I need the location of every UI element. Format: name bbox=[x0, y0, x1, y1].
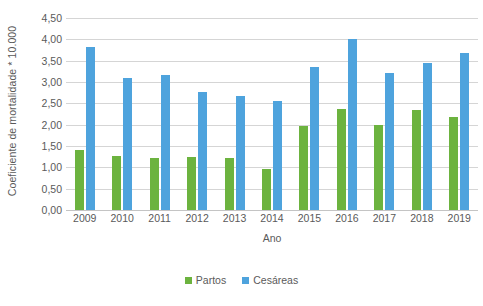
bar-partos-2010[interactable] bbox=[112, 156, 121, 210]
legend-swatch-icon bbox=[185, 277, 192, 284]
bar-cesreas-2015[interactable] bbox=[310, 67, 319, 210]
y-axis-tick-label: 0,50 bbox=[42, 183, 62, 195]
bar-partos-2015[interactable] bbox=[299, 126, 308, 210]
bar-group bbox=[291, 18, 328, 210]
y-axis-title-text: Coeficiente de mortalidade * 10.000 bbox=[6, 26, 18, 196]
x-axis-tick-label: 2014 bbox=[253, 212, 290, 230]
legend-label: Cesáreas bbox=[253, 274, 298, 286]
bar-cesreas-2016[interactable] bbox=[348, 39, 357, 210]
bar-group bbox=[216, 18, 253, 210]
bar-cesreas-2013[interactable] bbox=[236, 96, 245, 210]
x-axis-tick-label: 2015 bbox=[291, 212, 328, 230]
y-axis-tick-label: 3,50 bbox=[42, 55, 62, 67]
plot-area bbox=[66, 18, 478, 210]
x-axis-tick-label: 2009 bbox=[66, 212, 103, 230]
x-axis-tick-labels: 2009201020112012201320142015201620172018… bbox=[66, 212, 478, 230]
bar-group bbox=[103, 18, 140, 210]
bar-cesreas-2017[interactable] bbox=[385, 73, 394, 210]
legend-label: Partos bbox=[196, 274, 226, 286]
bar-partos-2012[interactable] bbox=[187, 157, 196, 210]
bar-cesreas-2018[interactable] bbox=[423, 63, 432, 210]
x-axis-title: Ano bbox=[66, 232, 478, 244]
bar-partos-2019[interactable] bbox=[449, 117, 458, 210]
x-axis-tick-label: 2019 bbox=[441, 212, 478, 230]
y-axis-tick-label: 1,00 bbox=[42, 161, 62, 173]
bar-partos-2013[interactable] bbox=[225, 158, 234, 210]
bar-group bbox=[366, 18, 403, 210]
bar-group bbox=[66, 18, 103, 210]
y-axis-title: Coeficiente de mortalidade * 10.000 bbox=[0, 0, 24, 222]
bar-partos-2014[interactable] bbox=[262, 169, 271, 210]
y-axis-tick-labels: 0,000,501,001,502,002,503,003,504,004,50 bbox=[24, 18, 66, 210]
legend-entry-partos[interactable]: Partos bbox=[185, 274, 226, 286]
legend-entry-cesreas[interactable]: Cesáreas bbox=[242, 274, 298, 286]
y-axis-tick-label: 2,00 bbox=[42, 119, 62, 131]
bar-cesreas-2012[interactable] bbox=[198, 92, 207, 210]
bar-partos-2009[interactable] bbox=[75, 150, 84, 210]
y-axis-tick-label: 2,50 bbox=[42, 97, 62, 109]
bars-layer bbox=[66, 18, 478, 210]
y-axis-tick-label: 3,00 bbox=[42, 76, 62, 88]
x-axis-tick-label: 2013 bbox=[216, 212, 253, 230]
y-axis-tick-label: 1,50 bbox=[42, 140, 62, 152]
gridline bbox=[66, 210, 478, 211]
bar-partos-2011[interactable] bbox=[150, 158, 159, 210]
bar-group bbox=[141, 18, 178, 210]
x-axis-tick-label: 2016 bbox=[328, 212, 365, 230]
bar-chart: Coeficiente de mortalidade * 10.000 0,00… bbox=[0, 0, 483, 306]
bar-cesreas-2011[interactable] bbox=[161, 75, 170, 210]
bar-cesreas-2019[interactable] bbox=[460, 53, 469, 210]
bar-group bbox=[178, 18, 215, 210]
bar-group bbox=[441, 18, 478, 210]
bar-cesreas-2009[interactable] bbox=[86, 47, 95, 210]
x-axis-tick-label: 2012 bbox=[178, 212, 215, 230]
bar-partos-2016[interactable] bbox=[337, 109, 346, 210]
x-axis-tick-label: 2017 bbox=[366, 212, 403, 230]
y-axis-tick-label: 4,50 bbox=[42, 12, 62, 24]
bar-partos-2018[interactable] bbox=[412, 110, 421, 210]
chart-legend: PartosCesáreas bbox=[0, 274, 483, 286]
legend-swatch-icon bbox=[242, 277, 249, 284]
bar-cesreas-2014[interactable] bbox=[273, 101, 282, 210]
y-axis-tick-label: 0,00 bbox=[42, 204, 62, 216]
bar-group bbox=[403, 18, 440, 210]
y-axis-tick-label: 4,00 bbox=[42, 33, 62, 45]
bar-cesreas-2010[interactable] bbox=[123, 78, 132, 210]
bar-group bbox=[328, 18, 365, 210]
bar-partos-2017[interactable] bbox=[374, 125, 383, 210]
x-axis-tick-label: 2011 bbox=[141, 212, 178, 230]
x-axis-tick-label: 2018 bbox=[403, 212, 440, 230]
x-axis-tick-label: 2010 bbox=[103, 212, 140, 230]
bar-group bbox=[253, 18, 290, 210]
